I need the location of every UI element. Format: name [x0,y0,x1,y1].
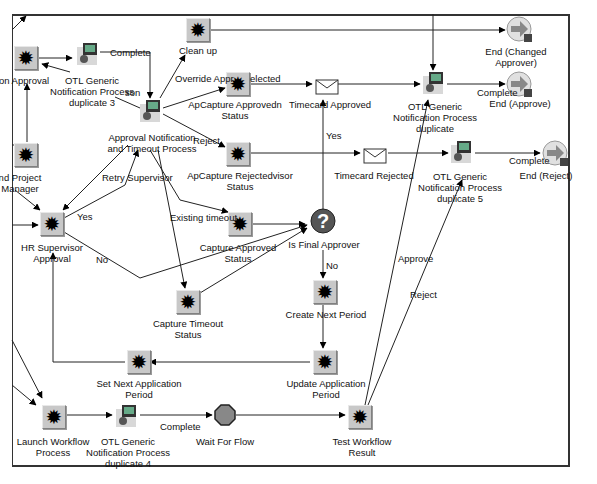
node-label-capture-approved-2: Status [225,253,252,264]
process-icon[interactable] [451,141,475,165]
node-label-otl-dup5-2: Notification Process [418,182,502,193]
edge-label-reject: Reject [193,135,220,146]
node-label-end-changed-1: End (Changed [485,46,546,57]
node-label-apcapture-rejected-1: ApCapture Rejectedvisor [187,170,293,181]
gear-icon[interactable]: ✹ [226,142,250,166]
node-label-hr-supervisor-1: HR Supervisor [21,242,83,253]
gear-icon[interactable]: ✹ [14,143,38,167]
node-label-test-workflow-1: Test Workflow [333,436,392,447]
node-label-wait-for-flow: Wait For Flow [196,436,254,447]
svg-text:?: ? [317,210,329,232]
edge-label-rejected: elected [250,73,281,84]
node-label-otl-dup4-2: Notification Process [86,447,170,458]
node-label-launch-workflow-1: Launch Workflow [17,436,90,447]
edge-label-complete: Complete [110,47,151,58]
node-label-update-period-1: Update Application [286,378,365,389]
node-label-set-next-period-2: Period [125,389,152,400]
gear-icon[interactable]: ✹ [176,290,200,314]
envelope-icon[interactable] [363,148,387,172]
gear-icon[interactable]: ✹ [40,212,64,236]
node-label-otl-dup-2: Notification Process [393,112,477,123]
node-label-timecard-rejected: Timecard Rejected [334,170,413,181]
node-label-otl-dup4-3: duplicate 4 [105,458,151,469]
stop-octagon-icon[interactable] [214,404,238,428]
node-label-otl-dup-1: OTL Generic [408,101,462,112]
edge-label-complete-bottom: Complete [160,421,201,432]
gear-icon[interactable]: ✹ [42,405,66,429]
node-label-end-reject: End (Reject) [520,170,573,181]
node-label-apcapture-approved-2: Status [222,110,249,121]
node-label-clean-up: Clean up [179,45,217,56]
node-label-apcapture-rejected-2: Status [227,181,254,192]
process-icon[interactable] [77,43,101,67]
node-label-launch-workflow-2: Process [36,447,70,458]
node-label-otl-dup3-3: duplicate 3 [69,97,115,108]
node-label-project-manager-1: nd Project [0,172,41,183]
gear-icon[interactable]: ✹ [14,46,38,70]
process-icon[interactable] [140,100,164,124]
edge-label-son: son [125,87,140,98]
node-label-approval-notif-2: and Timeout Process [107,143,196,154]
node-label-update-period-2: Period [312,389,339,400]
gear-icon[interactable]: ✹ [313,280,337,304]
gear-icon[interactable]: ✹ [186,18,210,42]
edge-label-override: Override Appr [175,73,234,84]
node-label-project-manager-2: Manager [1,183,39,194]
edge-label-complete-approve: Complete [477,87,518,98]
node-label-capture-timeout-2: Status [175,329,202,340]
edge-label-no-final: No [326,260,338,271]
node-label-son-approval: on Approval [0,75,49,86]
node-label-timecard-approved: Timecard Approved [289,99,371,110]
node-label-otl-dup5-3: duplicate 5 [437,193,483,204]
process-icon[interactable] [423,72,447,96]
node-label-is-final-approver: Is Final Approver [288,239,359,250]
gear-icon[interactable]: ✹ [348,405,372,429]
question-icon[interactable]: ? [310,208,334,232]
edge-label-retry-supervisor: Retry Supervisor [102,172,173,183]
node-label-create-next-period: Create Next Period [286,309,367,320]
edge-label-yes-final: Yes [326,130,342,141]
node-label-otl-dup4-1: OTL Generic [101,436,155,447]
node-label-otl-dup3-2: Notification Process [50,86,134,97]
edge-label-no: No [96,254,108,265]
node-label-apcapture-approved-1: ApCapture Approvedn [188,99,281,110]
node-label-hr-supervisor-2: Approval [33,253,71,264]
node-label-otl-dup5-1: OTL Generic [433,171,487,182]
edge-label-approve: Approve [398,253,433,264]
node-label-approval-notif-1: Approval Notification [108,132,195,143]
process-icon[interactable] [116,405,140,429]
node-label-set-next-period-1: Set Next Application [96,378,181,389]
edge-label-yes: Yes [77,211,93,222]
node-label-otl-dup-3: duplicate [416,123,454,134]
node-label-test-workflow-2: Result [349,447,376,458]
node-label-capture-approved-1: Capture Approved [200,242,277,253]
edge-label-existing-timeout: Existing timeout [170,212,237,223]
edge-label-complete-reject: Complete [509,155,550,166]
node-label-end-changed-2: Approver) [495,57,537,68]
node-label-otl-dup3-1: OTL Generic [65,75,119,86]
node-label-capture-timeout-1: Capture Timeout [153,318,223,329]
node-label-end-approve: End (Approve) [489,98,550,109]
gear-icon[interactable]: ✹ [127,350,151,374]
workflow-canvas[interactable]: ✹ on Approval OTL Generic Notification P… [0,0,597,484]
end-icon[interactable] [506,16,530,40]
gear-icon[interactable]: ✹ [313,350,337,374]
edge-label-reject-test: Reject [410,289,437,300]
